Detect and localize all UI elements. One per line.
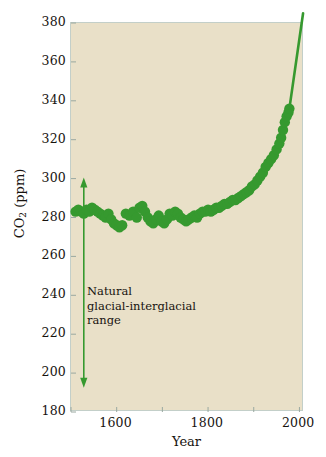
y-tick-240: 240 <box>4 288 66 301</box>
plot-canvas <box>71 23 304 412</box>
x-axis-title: Year <box>70 434 303 449</box>
annotation-line-3: range <box>87 313 207 328</box>
y-axis-title-text: CO <box>12 218 27 239</box>
plot-area: Natural glacial-interglacial range <box>70 22 303 411</box>
y-tick-180: 180 <box>4 405 66 418</box>
y-tick-380: 380 <box>4 16 66 29</box>
co2-chart-figure: 380 360 340 320 300 280 260 240 220 200 … <box>0 0 326 457</box>
x-tick-1800: 1800 <box>172 417 242 430</box>
annotation-line-2: glacial-interglacial <box>87 299 207 314</box>
y-tick-340: 340 <box>4 94 66 107</box>
y-axis-title-unit: (ppm) <box>12 169 27 212</box>
y-axis-title: CO2 (ppm) <box>12 149 27 259</box>
y-tick-200: 200 <box>4 366 66 379</box>
annotation-line-1: Natural <box>87 284 207 299</box>
y-tick-360: 360 <box>4 55 66 68</box>
y-tick-320: 320 <box>4 132 66 145</box>
y-axis-title-subscript: 2 <box>18 212 28 218</box>
x-tick-2000: 2000 <box>263 417 326 430</box>
y-tick-220: 220 <box>4 327 66 340</box>
y-axis-tick-labels: 380 360 340 320 300 280 260 240 220 200 … <box>0 0 66 457</box>
x-tick-1600: 1600 <box>81 417 151 430</box>
natural-range-annotation: Natural glacial-interglacial range <box>87 284 207 328</box>
data-markers-layer <box>70 13 303 232</box>
